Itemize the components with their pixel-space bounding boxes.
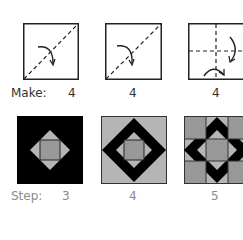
make-count-2: 4 <box>129 86 137 100</box>
step-number-5: 5 <box>211 189 219 203</box>
make-count-3: 4 <box>212 86 220 100</box>
step-number-4: 4 <box>129 189 137 203</box>
make-count-1: 4 <box>68 86 76 100</box>
block-step-5 <box>184 116 243 184</box>
make-label: Make: <box>11 86 47 100</box>
fold-diagram-3 <box>188 23 243 80</box>
step-label: Step: <box>11 189 42 203</box>
step-number-3: 3 <box>62 189 70 203</box>
fold-diagram-1 <box>23 23 79 80</box>
block-step-3 <box>17 116 83 184</box>
fold-diagram-2 <box>105 23 162 80</box>
block-step-4 <box>101 116 167 184</box>
